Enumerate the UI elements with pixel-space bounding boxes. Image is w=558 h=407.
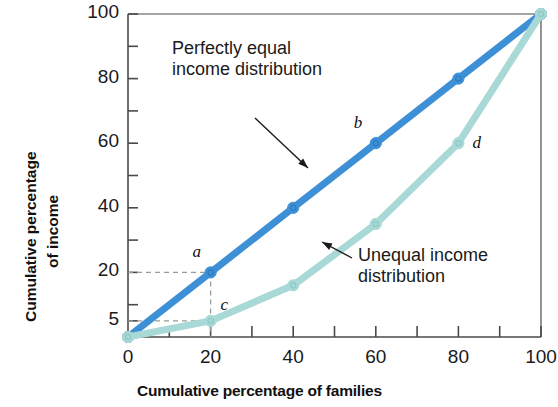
series-marker [370,138,381,149]
series-marker [453,73,464,84]
unequal-annotation-arrow-head [322,242,333,250]
series-marker [205,267,216,278]
annotation-arrows [255,118,352,258]
equal-annotation-arrow-shaft [255,118,308,168]
series-marker [453,138,464,149]
series-marker [288,202,299,213]
series-line-0 [128,14,541,337]
series-marker [370,218,381,229]
lorenz-curve-figure: Cumulative percentage of income Cumulati… [0,0,558,407]
series-marker [205,315,216,326]
plot-canvas [0,0,558,407]
series-marker [122,331,133,342]
data-series [122,8,546,342]
series-marker [535,8,546,19]
series-marker [288,280,299,291]
